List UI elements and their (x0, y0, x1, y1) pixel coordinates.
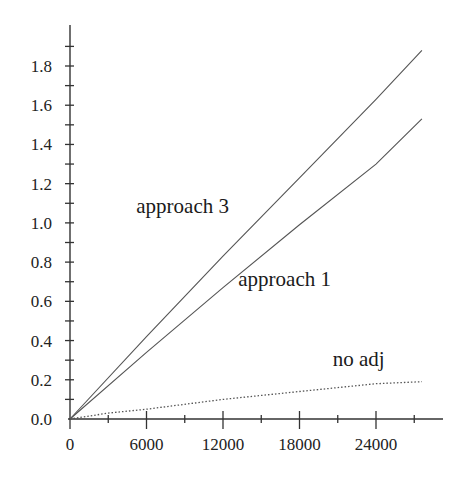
x-tick-label: 12000 (202, 435, 245, 454)
y-tick-label: 1.0 (31, 214, 52, 233)
series-label-approach-1: approach 1 (238, 267, 331, 291)
y-axis-ticks: 0.00.20.40.60.81.01.21.41.61.8 (31, 46, 74, 429)
series-line-no-adj (70, 382, 422, 419)
y-tick-label: 0.2 (31, 371, 52, 390)
line-chart: 0.00.20.40.60.81.01.21.41.61.8 060001200… (0, 0, 460, 477)
y-tick-label: 1.8 (31, 57, 52, 76)
x-axis-ticks: 06000120001800024000 (66, 411, 415, 454)
series-labels: approach 3approach 1no adj (136, 194, 384, 371)
y-tick-label: 0.0 (31, 410, 52, 429)
series-label-no-adj: no adj (333, 347, 385, 371)
x-tick-label: 18000 (278, 435, 321, 454)
y-tick-label: 0.6 (31, 292, 52, 311)
plot-area: 0.00.20.40.60.81.01.21.41.61.8 060001200… (31, 25, 443, 454)
y-tick-label: 0.4 (31, 332, 53, 351)
y-tick-label: 0.8 (31, 253, 52, 272)
x-tick-label: 6000 (130, 435, 164, 454)
x-tick-label: 24000 (355, 435, 398, 454)
y-tick-label: 1.2 (31, 175, 52, 194)
y-tick-label: 1.6 (31, 96, 52, 115)
series-label-approach-3: approach 3 (136, 194, 229, 218)
y-tick-label: 1.4 (31, 135, 53, 154)
x-tick-label: 0 (66, 435, 75, 454)
